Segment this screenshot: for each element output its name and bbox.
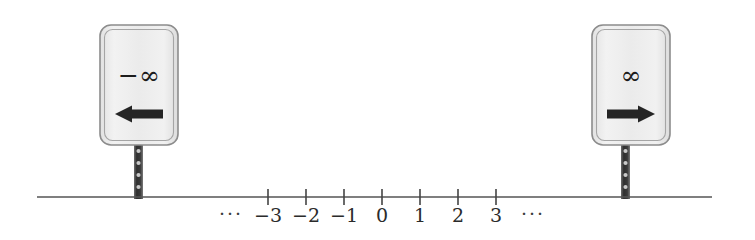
post-hole bbox=[623, 185, 627, 189]
tick-label-3: 3 bbox=[490, 204, 502, 226]
post-hole bbox=[136, 173, 140, 177]
positive-infinity-sign[interactable]: ∞ bbox=[592, 25, 670, 199]
positive-infinity-symbol: ∞ bbox=[621, 61, 642, 90]
ellipsis-left: ··· bbox=[219, 202, 243, 224]
post-hole bbox=[136, 185, 140, 189]
tick-label-2: 2 bbox=[452, 204, 464, 226]
post-hole bbox=[136, 149, 140, 153]
sign-post-left bbox=[134, 143, 143, 199]
negative-infinity-sign[interactable]: −∞ bbox=[100, 25, 178, 199]
figure-canvas: −∞ ∞ bbox=[0, 0, 755, 240]
tick-label-0: 0 bbox=[376, 204, 388, 226]
axis-tick-labels: −3 −2 −1 0 1 2 3 bbox=[254, 204, 502, 226]
post-hole bbox=[623, 161, 627, 165]
sign-post-right bbox=[621, 143, 630, 199]
post-hole bbox=[136, 161, 140, 165]
number-line-figure: −∞ ∞ bbox=[0, 0, 755, 240]
tick-label-1: 1 bbox=[414, 204, 426, 226]
ellipsis-right: ··· bbox=[521, 202, 545, 224]
post-hole bbox=[623, 149, 627, 153]
tick-label-minus-1: −1 bbox=[330, 204, 358, 226]
tick-label-minus-3: −3 bbox=[254, 204, 282, 226]
negative-infinity-symbol: −∞ bbox=[118, 61, 160, 90]
tick-label-minus-2: −2 bbox=[292, 204, 320, 226]
post-hole bbox=[623, 173, 627, 177]
